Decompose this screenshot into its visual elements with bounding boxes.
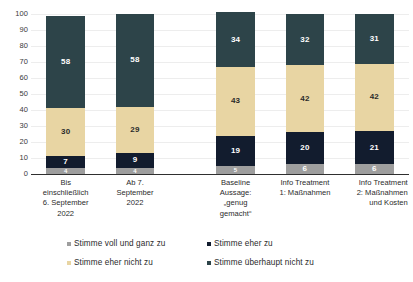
- legend-row: Stimme voll und ganz zuStimme eher zu: [0, 236, 413, 252]
- y-axis-tick-label: 100: [0, 10, 28, 18]
- bar-segment-value: 30: [61, 128, 70, 136]
- legend-label: Stimme überhaupt nicht zu: [214, 259, 314, 267]
- x-axis-label: Info Treatment1: Maßnahmen: [272, 178, 339, 198]
- y-axis-tick-label: 30: [0, 122, 28, 130]
- stacked-bar-chart: 1009080706050403020100 47305849295851943…: [0, 0, 413, 282]
- y-axis-tick-label: 60: [0, 74, 28, 82]
- bar-column[interactable]: 6204232: [286, 14, 325, 174]
- y-axis-tick-label: 70: [0, 58, 28, 66]
- legend-item[interactable]: Stimme überhaupt nicht zu: [207, 255, 347, 271]
- bar-segment-value: 32: [300, 36, 309, 44]
- legend-item[interactable]: Stimme eher nicht zu: [67, 255, 195, 271]
- bar-segment-value: 6: [303, 165, 308, 173]
- x-axis-label-line: Bis: [36, 178, 95, 188]
- y-axis-tick-label: 0: [0, 170, 28, 178]
- bar-segment-value: 19: [231, 147, 240, 155]
- bar-segment[interactable]: 5: [216, 166, 255, 174]
- bar-segment-value: 43: [231, 97, 240, 105]
- bar-segment[interactable]: 42: [355, 64, 394, 131]
- legend-item[interactable]: Stimme eher zu: [207, 236, 347, 252]
- bar-segment[interactable]: 19: [216, 136, 255, 166]
- y-axis: 1009080706050403020100: [0, 14, 28, 174]
- x-axis-label-line: 2: Maßnahmen: [341, 188, 408, 198]
- bar-segment[interactable]: 29: [116, 107, 155, 153]
- bar-segment[interactable]: 43: [216, 67, 255, 136]
- bar-stack: 473058: [46, 14, 85, 174]
- x-axis-label: Info Treatment2: Maßnahmenund Kosten: [341, 178, 408, 209]
- legend-swatch-icon: [207, 261, 211, 265]
- bar-stack: 6204232: [286, 14, 325, 174]
- bar-segment[interactable]: 21: [355, 131, 394, 165]
- y-axis-tick-label: 20: [0, 138, 28, 146]
- bar-segment-value: 4: [133, 168, 137, 174]
- bar-segment[interactable]: 4: [116, 168, 155, 174]
- y-axis-tick-label: 90: [0, 26, 28, 34]
- x-axis-label: BaselineAussage:„genuggemacht“: [206, 178, 265, 219]
- x-axis-label-line: „genug: [206, 198, 265, 208]
- x-axis-label-line: und Kosten: [341, 198, 408, 208]
- legend-swatch-icon: [67, 261, 71, 265]
- y-axis-tick-label: 50: [0, 90, 28, 98]
- bar-segment[interactable]: 34: [216, 12, 255, 66]
- legend-item[interactable]: Stimme voll und ganz zu: [67, 236, 195, 252]
- bar-segment[interactable]: 58: [116, 14, 155, 107]
- x-axis-category-labels: Biseinschließlich6. September2022Ab 7.Se…: [31, 178, 409, 236]
- x-axis-label-line: September: [106, 188, 165, 198]
- bar-segment-value: 42: [300, 95, 309, 103]
- x-axis-label-line: Aussage:: [206, 188, 265, 198]
- bar-segment-value: 31: [370, 35, 379, 43]
- bar-segment-value: 5: [234, 167, 238, 173]
- bar-segment[interactable]: 32: [286, 14, 325, 65]
- y-axis-tick-label: 10: [0, 154, 28, 162]
- legend-swatch-icon: [67, 242, 71, 246]
- x-axis-label-line: 2022: [106, 198, 165, 208]
- bar-segment[interactable]: 7: [46, 156, 85, 167]
- x-axis-label: Ab 7.September2022: [106, 178, 165, 209]
- bar-stack: 6214231: [355, 14, 394, 174]
- x-axis-label-line: Info Treatment: [341, 178, 408, 188]
- bar-segment-value: 58: [61, 58, 70, 66]
- y-axis-tick-label: 80: [0, 42, 28, 50]
- bar-column[interactable]: 6214231: [355, 14, 394, 174]
- legend-row: Stimme eher nicht zuStimme überhaupt nic…: [0, 255, 413, 271]
- x-axis-line: [31, 174, 409, 175]
- bar-segment-value: 42: [370, 93, 379, 101]
- y-axis-tick-label: 40: [0, 106, 28, 114]
- bar-segment[interactable]: 9: [116, 153, 155, 167]
- x-axis-label: Biseinschließlich6. September2022: [36, 178, 95, 219]
- bar-column[interactable]: 5194334: [216, 14, 255, 174]
- bar-segment[interactable]: 31: [355, 14, 394, 64]
- bar-segment[interactable]: 42: [286, 65, 325, 132]
- bar-segment-value: 9: [133, 156, 138, 164]
- x-axis-label-line: Ab 7.: [106, 178, 165, 188]
- bar-segment[interactable]: 6: [286, 164, 325, 174]
- x-axis-label-line: Baseline: [206, 178, 265, 188]
- legend-swatch-icon: [207, 242, 211, 246]
- bar-segment-value: 6: [372, 165, 377, 173]
- bar-segment[interactable]: 4: [46, 168, 85, 174]
- x-axis-label-line: 1: Maßnahmen: [272, 188, 339, 198]
- bar-column[interactable]: 492958: [116, 14, 155, 174]
- bar-segment-value: 7: [63, 158, 68, 166]
- bar-stack: 5194334: [216, 14, 255, 174]
- bar-column[interactable]: 473058: [46, 14, 85, 174]
- bar-segment-value: 34: [231, 36, 240, 44]
- bar-stack: 492958: [116, 14, 155, 174]
- chart-legend: Stimme voll und ganz zuStimme eher zuSti…: [0, 236, 413, 278]
- x-axis-label-line: 6. September: [36, 198, 95, 208]
- plot-area: 1009080706050403020100 47305849295851943…: [0, 0, 413, 180]
- bar-segment[interactable]: 58: [46, 16, 85, 109]
- bar-segment-value: 20: [300, 144, 309, 152]
- bar-segment-value: 29: [130, 126, 139, 134]
- x-axis-label-line: 2022: [36, 209, 95, 219]
- x-axis-label-line: einschließlich: [36, 188, 95, 198]
- bar-segment-value: 58: [130, 56, 139, 64]
- x-axis-label-line: Info Treatment: [272, 178, 339, 188]
- legend-label: Stimme eher nicht zu: [74, 259, 153, 267]
- bars-layer: 473058492958519433462042326214231: [31, 14, 409, 174]
- x-axis-label-line: gemacht“: [206, 209, 265, 219]
- legend-label: Stimme voll und ganz zu: [74, 240, 166, 248]
- bar-segment[interactable]: 20: [286, 132, 325, 164]
- bar-segment[interactable]: 6: [355, 164, 394, 174]
- bar-segment[interactable]: 30: [46, 108, 85, 156]
